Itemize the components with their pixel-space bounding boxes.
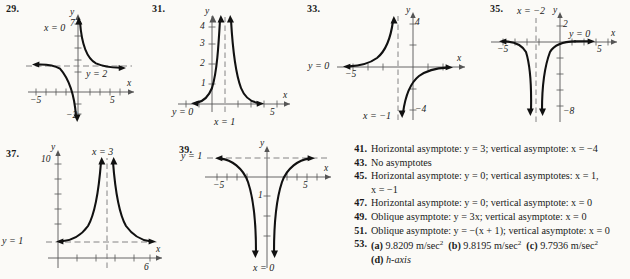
figure-37-number: 37. — [6, 148, 19, 159]
figure-35-x-axis-label: x — [611, 28, 615, 38]
figure-29-graph — [0, 0, 150, 128]
answer-item-43: 43. No asymptotes — [348, 156, 630, 169]
figure-29-y-top-tick: 7 — [70, 18, 75, 28]
figure-29-y-axis-label: y — [70, 7, 74, 17]
figure-35-x-left-tick: −5 — [497, 44, 508, 54]
answer-43-text: No asymptotes — [371, 156, 630, 169]
answer-item-47: 47. Horizontal asymptote: y = 0; vertica… — [348, 196, 630, 209]
figure-31-y-tick-1: 1 — [201, 78, 206, 88]
figure-37: 37. — [0, 130, 175, 279]
figure-39-y-tick-1: 1 — [258, 190, 263, 200]
answer-53-part-b-exponent: 2 — [518, 239, 522, 247]
figure-33-vertical-asymptote-label: x = −1 — [363, 110, 391, 121]
figure-33-y-bottom-tick: −4 — [415, 104, 426, 114]
answer-53-part-d-value: h-axis — [386, 254, 411, 265]
figure-33-y-top-tick: 4 — [415, 17, 420, 27]
figure-35-number: 35. — [490, 3, 503, 14]
figure-37-y-top-tick: 10 — [41, 154, 51, 164]
figure-35: 35. — [465, 0, 630, 128]
answer-49-text: Oblique asymptote: y = 3x; vertical asym… — [371, 210, 630, 223]
figure-29-vertical-asymptote-label: x = 0 — [44, 22, 65, 33]
figure-33: 33. — [305, 0, 470, 128]
figure-31-y-axis-label: y — [205, 6, 209, 16]
answer-51-number: 51. — [348, 224, 371, 237]
answer-45-continuation: x = −1 — [348, 183, 630, 196]
figure-33-y-axis-label: y — [406, 5, 410, 15]
figure-35-horizontal-asymptote-label: y = 0 — [569, 28, 590, 39]
answer-45-number: 45. — [348, 169, 371, 182]
answer-53-part-b-value: 9.8195 m/sec — [463, 241, 517, 252]
figure-35-y-axis-label: y — [553, 5, 557, 15]
figure-29: 29. — [0, 0, 150, 128]
figure-37-x-axis-label: x — [156, 244, 160, 254]
figure-33-graph — [305, 0, 470, 128]
figure-37-x-right-tick: 6 — [144, 262, 149, 272]
figure-39: 39. — [175, 130, 345, 279]
figure-39-x-axis-label: x — [324, 163, 328, 173]
answer-49-number: 49. — [348, 210, 371, 223]
figure-31-x-right-tick: 5 — [270, 107, 275, 117]
figure-31-vertical-asymptote-label: x = 1 — [214, 116, 235, 127]
figure-33-x-axis-label: x — [457, 53, 461, 63]
figure-31-y-tick-4: 4 — [200, 21, 205, 31]
answer-item-49: 49. Oblique asymptote: y = 3x; vertical … — [348, 210, 630, 223]
figure-31-number: 31. — [152, 3, 165, 14]
answer-53-continuation: (d) h-axis — [348, 253, 630, 266]
figure-33-number: 33. — [307, 3, 320, 14]
answer-53-part-c-value: 9.7936 m/sec — [540, 241, 594, 252]
answer-53-part-c-label: (c) — [526, 241, 537, 252]
answer-43-number: 43. — [348, 156, 371, 169]
figure-35-x-right-tick: 5 — [597, 44, 602, 54]
figure-29-horizontal-asymptote-label: y = 2 — [86, 68, 107, 79]
answer-53-part-b-label: (b) — [448, 241, 460, 252]
answer-53-part-a-label: (a) — [371, 241, 383, 252]
figure-33-horizontal-asymptote-label: y = 0 — [308, 60, 329, 71]
figure-39-x-left-tick: −5 — [213, 180, 224, 190]
answer-list: 41. Horizontal asymptote: y = 3; vertica… — [348, 142, 630, 266]
answer-47-text: Horizontal asymptote: y = 0; vertical as… — [371, 196, 630, 209]
figure-29-x-axis-label: x — [127, 78, 131, 88]
figure-39-y-axis-label: y — [260, 138, 264, 148]
answer-53-parts: (a) 9.8209 m/sec2 (b) 9.8195 m/sec2 (c) … — [371, 237, 630, 252]
figure-35-y-bottom-tick: −8 — [563, 106, 574, 116]
figure-35-vertical-asymptote-label: x = −2 — [517, 5, 545, 16]
answer-53-part-a-exponent: 2 — [440, 239, 444, 247]
figure-39-vertical-asymptote-label: x = 0 — [253, 262, 274, 273]
answer-41-number: 41. — [348, 142, 371, 155]
answer-51-text: Oblique asymptote: y = −(x + 1); vertica… — [371, 224, 630, 237]
figure-39-horizontal-asymptote-label: y = 1 — [181, 150, 202, 161]
answer-53-part-a-value: 9.8209 m/sec — [385, 241, 439, 252]
figure-29-number: 29. — [6, 3, 19, 14]
answer-item-41: 41. Horizontal asymptote: y = 3; vertica… — [348, 142, 630, 155]
figure-37-y-axis-label: y — [51, 142, 55, 152]
figure-35-graph — [465, 0, 630, 128]
answer-key-page: 29. — [0, 0, 630, 279]
answer-45-text: Horizontal asymptote: y = 0; vertical as… — [371, 169, 630, 182]
figure-35-y-top-tick: 2 — [563, 19, 568, 29]
figure-39-x-right-tick: 5 — [303, 180, 308, 190]
figure-31-x-axis-label: x — [283, 90, 287, 100]
figure-37-horizontal-asymptote-label: y = 1 — [2, 235, 23, 246]
figure-33-x-left-tick: −5 — [345, 69, 356, 79]
figure-31-y-tick-3: 3 — [200, 38, 205, 48]
figure-29-x-left-tick: −5 — [30, 95, 41, 105]
answer-53-part-d-label: (d) — [371, 254, 383, 265]
figure-31-horizontal-asymptote-label: y = 0 — [172, 106, 193, 117]
answer-47-number: 47. — [348, 196, 371, 209]
figure-31-y-tick-2: 2 — [200, 58, 205, 68]
figure-31: 31. — [148, 0, 308, 128]
figure-29-y-bottom-tick: −2 — [66, 110, 77, 120]
figure-37-vertical-asymptote-label: x = 3 — [92, 146, 113, 157]
answer-53-number: 53. — [348, 237, 371, 250]
answer-item-51: 51. Oblique asymptote: y = −(x + 1); ver… — [348, 224, 630, 237]
figure-29-x-right-tick: 5 — [110, 95, 115, 105]
answer-item-45: 45. Horizontal asymptote: y = 0; vertica… — [348, 169, 630, 182]
answer-53-part-c-exponent: 2 — [594, 239, 598, 247]
answer-41-text: Horizontal asymptote: y = 3; vertical as… — [371, 142, 630, 155]
figure-37-graph — [0, 130, 175, 279]
answer-item-53: 53. (a) 9.8209 m/sec2 (b) 9.8195 m/sec2 … — [348, 237, 630, 252]
